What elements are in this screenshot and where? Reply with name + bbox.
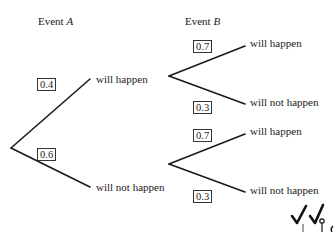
pen-stroke — [331, 226, 333, 232]
check-marks — [0, 0, 336, 232]
check-mark-icon — [292, 206, 306, 223]
check-mark-icon — [310, 205, 324, 232]
